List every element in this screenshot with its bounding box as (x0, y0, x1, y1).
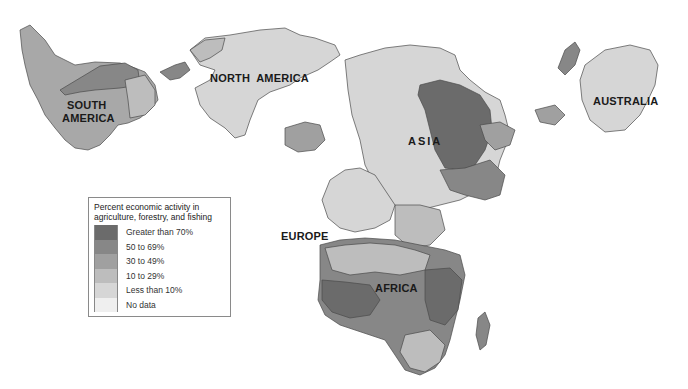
region-label-africa: AFRICA (375, 282, 418, 295)
legend-item-no-data: No data (94, 298, 225, 313)
legend-item-50-69: 50 to 69% (94, 240, 225, 255)
central-america-shape (160, 62, 190, 80)
legend-swatch (94, 298, 118, 313)
east-africa-shape (425, 268, 462, 325)
map-legend: Percent economic activity in agriculture… (88, 197, 231, 317)
legend-item-30-49: 30 to 49% (94, 254, 225, 269)
region-label-south-america: SOUTH AMERICA (62, 99, 115, 125)
world-map (0, 0, 688, 389)
legend-item-10-29: 10 to 29% (94, 269, 225, 284)
legend-swatch (94, 269, 118, 284)
legend-swatch (94, 225, 118, 240)
region-label-australia: AUSTRALIA (593, 95, 658, 108)
madagascar-shape (476, 312, 490, 350)
greenland-shape (285, 122, 325, 152)
indonesia-shape (535, 105, 565, 125)
region-label-europe: EUROPE (281, 230, 329, 243)
australia-shape (580, 45, 658, 132)
legend-swatch (94, 240, 118, 255)
japan-shape (558, 42, 580, 75)
legend-title: Percent economic activity in agriculture… (94, 202, 225, 222)
region-label-north-america: NORTH AMERICA (210, 72, 309, 85)
legend-swatch (94, 254, 118, 269)
region-label-asia: ASIA (408, 135, 442, 148)
legend-item-gt70: Greater than 70% (94, 225, 225, 240)
legend-swatch (94, 283, 118, 298)
legend-item-lt10: Less than 10% (94, 283, 225, 298)
